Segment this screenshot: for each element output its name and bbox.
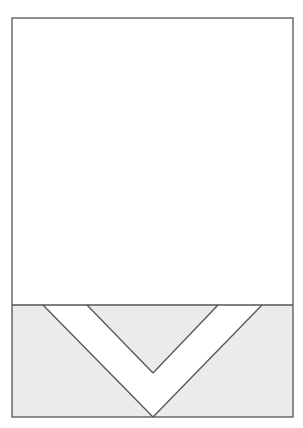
diagram-canvas: [0, 0, 303, 428]
